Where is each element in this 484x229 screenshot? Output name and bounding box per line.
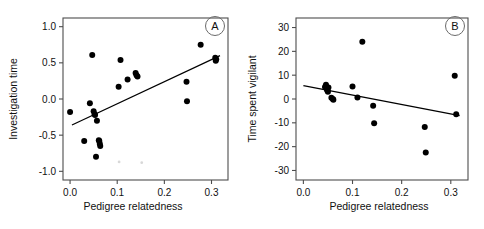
data-point (213, 56, 219, 62)
panel-b-y-axis-title: Time spent vigilant (246, 55, 258, 142)
data-point (97, 143, 103, 149)
data-point (350, 84, 356, 90)
faint-data-point (140, 161, 143, 164)
data-point (89, 52, 95, 58)
x-tick-label: 0.2 (395, 187, 409, 198)
panel-b-letter: B (451, 20, 458, 32)
data-point (370, 103, 376, 109)
x-tick-label: 0.1 (346, 187, 360, 198)
panel-a-y-axis-title: Investigation time (7, 58, 19, 140)
faint-data-point (118, 161, 121, 164)
data-point (453, 111, 459, 117)
data-point (325, 85, 331, 91)
data-point (198, 42, 204, 48)
panel-a-x-axis-title: Pedigree relatedness (83, 200, 182, 212)
data-point (134, 74, 140, 80)
data-point (67, 109, 73, 115)
y-tick-label: -1.0 (39, 166, 57, 177)
data-point (125, 76, 131, 82)
panel-b: 0.00.10.20.33020100-10-20-30 Pedigree re… (242, 0, 484, 229)
data-point (371, 120, 377, 126)
data-point (423, 150, 429, 156)
plot-frame (63, 18, 228, 180)
x-tick-label: 0.1 (110, 187, 124, 198)
x-tick-label: 0.3 (444, 187, 458, 198)
y-tick-label: 20 (278, 46, 290, 57)
data-point (118, 57, 124, 63)
y-tick-label: 0.0 (42, 94, 56, 105)
x-tick-label: 0.0 (63, 187, 77, 198)
panel-a-plot: 0.00.10.20.31.00.50.0-0.5-1.0 Pedigree r… (0, 0, 242, 229)
panel-b-axes (292, 18, 468, 184)
y-tick-label: 1.0 (42, 21, 56, 32)
panel-a-faint-points (118, 161, 143, 165)
y-tick-label: -30 (275, 165, 290, 176)
data-point (422, 124, 428, 130)
data-point (452, 73, 458, 79)
data-point (92, 112, 98, 118)
y-tick-label: -0.5 (39, 130, 57, 141)
y-tick-label: -10 (275, 117, 290, 128)
panel-a-tick-labels: 0.00.10.20.31.00.50.0-0.5-1.0 (39, 21, 219, 198)
y-tick-label: 10 (278, 70, 290, 81)
data-point (184, 98, 190, 104)
data-point (116, 84, 122, 90)
panel-b-plot: 0.00.10.20.33020100-10-20-30 Pedigree re… (242, 0, 484, 229)
x-tick-label: 0.2 (157, 187, 171, 198)
panel-a: 0.00.10.20.31.00.50.0-0.5-1.0 Pedigree r… (0, 0, 242, 229)
data-point (81, 138, 87, 144)
data-point (94, 118, 100, 124)
y-tick-label: -20 (275, 141, 290, 152)
y-tick-label: 30 (278, 22, 290, 33)
y-tick-label: 0.5 (42, 57, 56, 68)
data-point (184, 79, 190, 85)
figure-container: 0.00.10.20.31.00.50.0-0.5-1.0 Pedigree r… (0, 0, 484, 229)
panel-b-data-points (322, 39, 459, 156)
panel-a-letter: A (211, 20, 219, 32)
panel-a-data-points (67, 42, 219, 160)
data-point (354, 95, 360, 101)
y-tick-label: 0 (283, 94, 289, 105)
data-point (330, 97, 336, 103)
x-tick-label: 0.0 (296, 187, 310, 198)
data-point (93, 154, 99, 160)
x-tick-label: 0.3 (205, 187, 219, 198)
data-point (359, 39, 365, 45)
plot-frame (296, 18, 468, 180)
data-point (87, 100, 93, 106)
panel-b-x-axis-title: Pedigree relatedness (329, 200, 428, 212)
